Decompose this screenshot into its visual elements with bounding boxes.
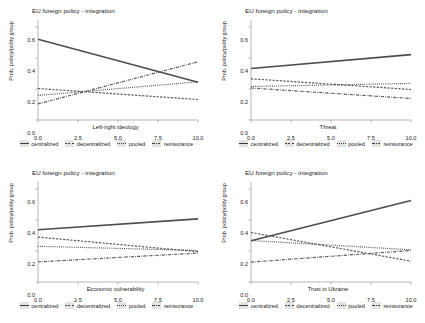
legend-item-reinsurance[interactable]: reinsurance [152, 140, 193, 147]
y-axis [36, 20, 39, 120]
legend-item-centralized[interactable]: centralized [20, 302, 59, 309]
legend-label: centralized [31, 141, 58, 147]
legend-key-dashdot-icon [152, 302, 161, 309]
legend-item-decentralized[interactable]: decentralized [65, 140, 110, 147]
legend-label: centralized [251, 141, 278, 147]
plot-svg [251, 20, 411, 120]
legend-key-dashed-icon [65, 140, 74, 147]
legend-label: decentralized [296, 303, 329, 309]
legend-item-pooled[interactable]: pooled [117, 302, 145, 309]
x-axis [251, 282, 411, 285]
line-pooled [251, 241, 411, 250]
y-tick-0: 0.6 [230, 37, 248, 43]
legend-item-pooled[interactable]: pooled [337, 302, 365, 309]
y-tick-1: 0.4 [230, 68, 248, 74]
legend-label: pooled [348, 303, 365, 309]
plot-svg [251, 182, 411, 282]
legend-item-pooled[interactable]: pooled [337, 140, 365, 147]
figure-grid: EU foreign policy - integration Prob. po… [0, 0, 425, 323]
legend-label: pooled [129, 303, 146, 309]
legend: centralized decentralized pooled reinsur… [213, 302, 425, 309]
y-tick-2: 0.2 [230, 99, 248, 105]
legend-key-dashdot-icon [152, 140, 161, 147]
line-decentralized [38, 237, 198, 252]
legend-label: pooled [129, 141, 146, 147]
legend-item-decentralized[interactable]: decentralized [285, 302, 330, 309]
panel-economic-vulnerability: EU foreign policy - integration Prob. po… [0, 162, 213, 323]
legend: centralized decentralized pooled reinsur… [0, 140, 213, 147]
legend-item-decentralized[interactable]: decentralized [65, 302, 110, 309]
y-tick-2: 0.2 [17, 99, 35, 105]
legend-key-dashed-icon [65, 302, 74, 309]
y-tick-2: 0.2 [17, 261, 35, 267]
series-lines [251, 55, 411, 99]
x-axis-label: Left-right ideology [0, 124, 213, 130]
plot-svg [38, 182, 198, 282]
legend-key-solid-icon [20, 302, 29, 309]
y-axis [249, 182, 252, 282]
x-axis [251, 120, 411, 123]
y-axis [249, 20, 252, 120]
legend: centralized decentralized pooled reinsur… [0, 302, 213, 309]
y-tick-2: 0.2 [230, 261, 248, 267]
x-axis [38, 120, 198, 123]
legend-label: reinsurance [383, 141, 412, 147]
legend-key-solid-icon [239, 140, 248, 147]
line-reinsurance [38, 62, 198, 104]
legend-label: decentralized [77, 303, 110, 309]
y-tick-1: 0.4 [17, 68, 35, 74]
legend-item-reinsurance[interactable]: reinsurance [152, 302, 193, 309]
legend-item-reinsurance[interactable]: reinsurance [372, 302, 413, 309]
plot-svg [38, 20, 198, 120]
line-reinsurance [251, 88, 411, 99]
panel-threat: EU foreign policy - integration Prob. po… [213, 0, 425, 162]
series-lines [251, 201, 411, 263]
y-axis-label: Prob. policy/polity group [221, 176, 227, 250]
legend-item-decentralized[interactable]: decentralized [285, 140, 330, 147]
legend-key-solid-icon [239, 302, 248, 309]
series-lines [38, 219, 198, 262]
panel-title: EU foreign policy - integration [32, 169, 115, 176]
legend-key-dotted-icon [337, 140, 346, 147]
line-centralized [251, 201, 411, 241]
y-axis [36, 182, 39, 282]
legend-item-centralized[interactable]: centralized [239, 140, 278, 147]
line-decentralized [251, 233, 411, 262]
legend-label: pooled [348, 141, 365, 147]
legend-item-reinsurance[interactable]: reinsurance [372, 140, 413, 147]
y-tick-1: 0.4 [17, 230, 35, 236]
line-decentralized [251, 79, 411, 90]
series-lines [38, 39, 198, 104]
y-axis-label: Prob. policy/polity group [221, 14, 227, 88]
legend-label: decentralized [296, 141, 329, 147]
y-tick-0: 0.6 [17, 199, 35, 205]
x-axis-label: Trust in Ukraine [213, 286, 425, 292]
legend-key-dotted-icon [117, 140, 126, 147]
y-tick-1: 0.4 [230, 230, 248, 236]
legend-key-dashdot-icon [372, 302, 381, 309]
legend-key-dashed-icon [285, 302, 294, 309]
legend-key-dotted-icon [117, 302, 126, 309]
legend-item-centralized[interactable]: centralized [20, 140, 59, 147]
panel-title: EU foreign policy - integration [32, 7, 115, 14]
line-pooled [38, 246, 198, 250]
legend-key-dashed-icon [285, 140, 294, 147]
line-reinsurance [38, 253, 198, 262]
legend-key-solid-icon [20, 140, 29, 147]
legend-label: centralized [251, 303, 278, 309]
legend-item-centralized[interactable]: centralized [239, 302, 278, 309]
x-axis-label: Economic vulnerability [0, 286, 213, 292]
panel-title: EU foreign policy - integration [245, 169, 328, 176]
panel-trust-in-ukraine: EU foreign policy - integration Prob. po… [213, 162, 425, 323]
legend: centralized decentralized pooled reinsur… [213, 140, 425, 147]
y-axis-label: Prob. policy/polity group [8, 14, 14, 88]
line-pooled [38, 82, 198, 96]
x-axis-label: Threat [213, 124, 425, 130]
legend-label: reinsurance [164, 141, 193, 147]
panel-left-right-ideology: EU foreign policy - integration Prob. po… [0, 0, 213, 162]
y-tick-0: 0.6 [230, 199, 248, 205]
legend-item-pooled[interactable]: pooled [117, 140, 145, 147]
y-axis-label: Prob. policy/polity group [8, 176, 14, 250]
y-tick-0: 0.6 [17, 37, 35, 43]
x-axis [38, 282, 198, 285]
